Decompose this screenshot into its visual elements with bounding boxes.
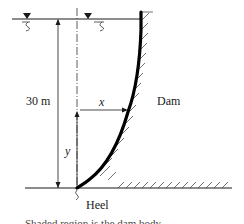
heel-leader-icon xyxy=(76,190,79,200)
arrow-down-icon xyxy=(56,182,61,188)
water-level-marker-icon xyxy=(23,13,31,19)
water-wave-icon xyxy=(94,22,104,31)
y-variable-label: y xyxy=(65,145,70,157)
arrow-up-icon xyxy=(56,19,61,25)
x-variable-label: x xyxy=(99,96,104,108)
dam-label: Dam xyxy=(157,95,180,107)
ground-hatching xyxy=(118,182,228,188)
dam-diagram xyxy=(0,0,244,224)
arrow-up-icon xyxy=(75,111,80,117)
water-wave-icon xyxy=(22,22,30,31)
height-label: 30 m xyxy=(26,95,50,107)
dam-face-curve xyxy=(77,12,141,188)
water-level-marker-icon xyxy=(84,13,92,19)
figure-caption: Shaded region is the dam body xyxy=(25,218,161,224)
heel-label: Heel xyxy=(86,199,109,211)
